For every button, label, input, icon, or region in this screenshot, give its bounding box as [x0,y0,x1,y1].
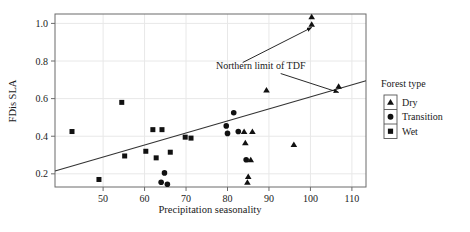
y-tick-label-2: 0.6 [36,93,49,104]
data-point-transition-3 [235,129,241,135]
figure-background [0,0,470,232]
x-tick-label-4: 90 [264,193,274,204]
x-tick-label-0: 50 [98,193,108,204]
data-point-transition-5 [162,170,168,176]
data-point-transition-2 [225,131,231,137]
y-tick-label-0: 0.2 [36,168,49,179]
scatter-plot-figure: 5060708090100110 0.20.40.60.81.0 Norther… [0,0,470,232]
data-point-transition-7 [165,181,171,187]
data-point-wet-3 [70,129,75,134]
data-point-wet-5 [189,136,194,141]
legend-marker-circle [388,114,394,120]
legend-title: Forest type [381,78,426,89]
y-axis-label: FDis SLA [7,79,18,122]
data-point-transition-4 [243,157,249,163]
x-tick-label-6: 110 [345,193,360,204]
data-point-wet-0 [119,100,124,105]
x-tick-label-5: 100 [303,193,318,204]
data-point-wet-7 [168,150,173,155]
legend-label-transition[interactable]: Transition [402,111,443,122]
x-tick-label-3: 80 [223,193,233,204]
data-point-wet-10 [96,177,101,182]
data-point-transition-1 [223,123,229,129]
data-point-wet-4 [183,135,188,140]
x-tick-label-1: 60 [140,193,150,204]
annotation-label: Northern limit of TDF [216,60,306,71]
data-point-wet-2 [159,127,164,132]
data-point-transition-0 [231,110,237,116]
data-point-transition-6 [158,179,164,185]
y-tick-label-1: 0.4 [36,131,49,142]
y-tick-label-3: 0.8 [36,56,49,67]
data-point-wet-1 [150,127,155,132]
data-point-wet-9 [154,155,159,160]
legend-label-dry[interactable]: Dry [402,97,418,108]
x-axis-label: Precipitation seasonality [159,204,263,215]
legend-marker-square [388,129,393,134]
data-point-wet-6 [143,149,148,154]
x-tick-label-2: 70 [181,193,191,204]
y-tick-label-4: 1.0 [36,18,49,29]
data-point-wet-8 [122,153,127,158]
legend-label-wet[interactable]: Wet [402,126,418,137]
